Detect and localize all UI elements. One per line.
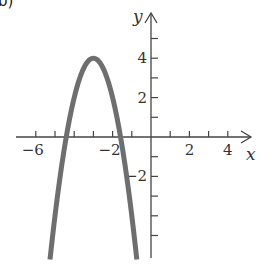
y-tick-labels: 42−2 xyxy=(125,49,147,185)
y-axis-label: y xyxy=(132,6,143,26)
x-tick-labels: −6−224 xyxy=(22,141,233,159)
parabola-curve xyxy=(50,58,137,259)
x-tick-label: −6 xyxy=(22,141,44,159)
x-tick-label: −2 xyxy=(99,141,121,159)
y-tick-label: 2 xyxy=(137,89,147,107)
x-tick-label: 2 xyxy=(185,141,195,159)
y-tick-label: 4 xyxy=(137,49,147,67)
x-tick-label: 4 xyxy=(223,141,233,159)
panel-label: b) xyxy=(0,0,13,10)
x-axis-label: x xyxy=(246,144,256,164)
graph-canvas: b) x y −6−224 42−2 xyxy=(0,0,261,268)
